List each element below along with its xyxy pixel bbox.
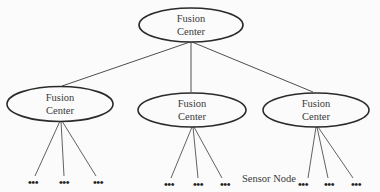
- sensor-node-3-1: •••: [298, 178, 309, 190]
- sensor-node-2-2: •••: [193, 178, 204, 190]
- sensor-node-3-2: •••: [324, 178, 335, 190]
- sensor-nodes: ••• ••• ••• ••• ••• ••• ••• ••• •••: [28, 176, 362, 190]
- sensor-node-2-1: •••: [164, 178, 175, 190]
- child-1-label-line1: Fusion: [46, 92, 75, 103]
- root-edges: [62, 42, 313, 92]
- sensor-node-3-3: •••: [351, 178, 362, 190]
- child-fusion-center-2: Fusion Center: [138, 93, 246, 127]
- child-2-label-line1: Fusion: [178, 98, 207, 109]
- child-fusion-center-1: Fusion Center: [7, 87, 113, 122]
- child-1-label-line2: Center: [46, 105, 74, 116]
- child-2-label-line2: Center: [178, 111, 206, 122]
- sensor-node-1-2: •••: [59, 176, 70, 188]
- root-label-line2: Center: [177, 26, 205, 37]
- sensor-node-1-3: •••: [93, 176, 104, 188]
- fusion-tree-diagram: Fusion Center Fusion Center Fusion Cente…: [0, 0, 380, 192]
- root-label-line1: Fusion: [177, 13, 206, 24]
- sensor-edges: [35, 121, 353, 178]
- child-3-label-line2: Center: [302, 111, 330, 122]
- sensor-node-label: Sensor Node: [242, 173, 296, 184]
- child-3-label-line1: Fusion: [302, 98, 331, 109]
- child-fusion-center-3: Fusion Center: [263, 93, 369, 127]
- edge-root-to-child-3: [192, 42, 313, 92]
- edge-root-to-child-1: [62, 42, 190, 86]
- sensor-node-1-1: •••: [28, 176, 39, 188]
- root-fusion-center: Fusion Center: [139, 8, 243, 42]
- sensor-node-2-3: •••: [220, 178, 231, 190]
